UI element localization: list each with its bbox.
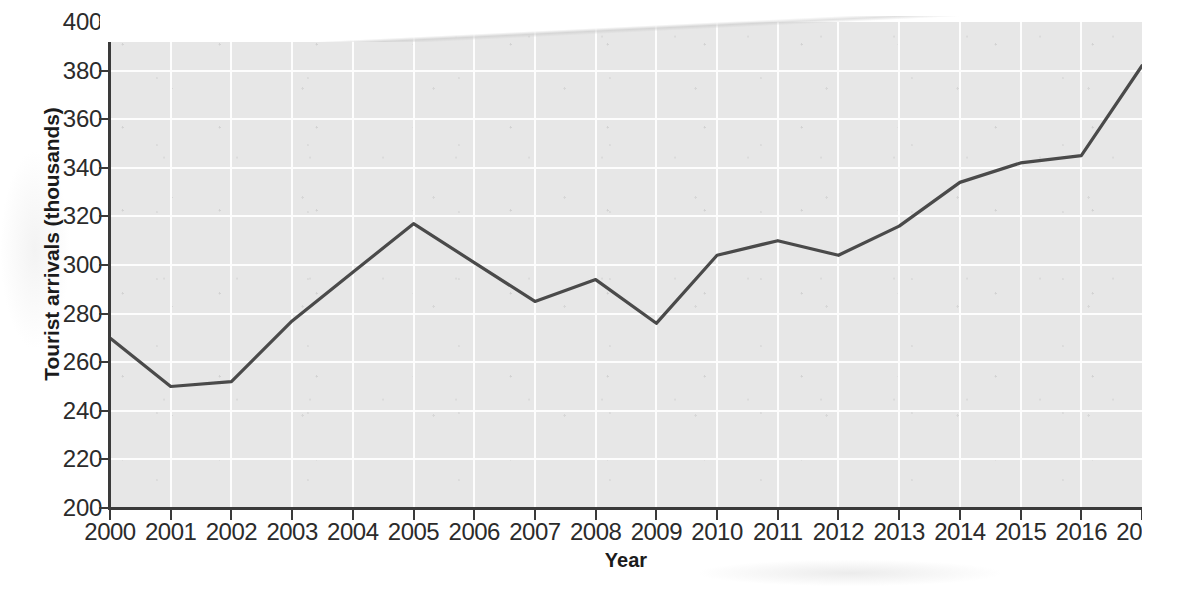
x-tick-label: 2006: [449, 518, 500, 546]
x-tick-label: 2012: [813, 518, 864, 546]
tick-mark-y: [99, 70, 110, 72]
x-tick-label: 2015: [995, 518, 1046, 546]
x-tick-label: 2009: [631, 518, 682, 546]
tick-mark-y: [99, 167, 110, 169]
x-tick-label: 2016: [1056, 518, 1107, 546]
x-tick-label: 2008: [570, 518, 621, 546]
x-tick-label: 2017: [1116, 518, 1167, 546]
x-tick-label: 2004: [327, 518, 378, 546]
x-tick-label: 2002: [206, 518, 257, 546]
x-tick-label: 2013: [873, 518, 924, 546]
tick-mark-y: [99, 313, 110, 315]
x-axis-spine: [108, 507, 1143, 510]
tick-mark-y: [99, 215, 110, 217]
x-tick-label: 2000: [84, 518, 135, 546]
x-tick-label: 2007: [509, 518, 560, 546]
line-chart-figure: Tourist arrivals (thousands) 20022024026…: [0, 0, 1178, 591]
tourist-arrivals-series-path: [110, 66, 1142, 387]
data-series-line: [0, 0, 1178, 591]
x-tick-label: 2014: [934, 518, 985, 546]
tick-mark-y: [99, 118, 110, 120]
tick-mark-y: [99, 361, 110, 363]
tick-mark-y: [99, 264, 110, 266]
x-axis-tick-labels: 2000200120022003200420052006200720082009…: [0, 512, 1178, 546]
tick-mark-y: [99, 410, 110, 412]
x-tick-label: 2011: [753, 518, 803, 546]
x-axis-title: Year: [110, 549, 1142, 572]
tick-mark-y: [99, 458, 110, 460]
x-tick-label: 2003: [266, 518, 317, 546]
x-tick-label: 2005: [388, 518, 439, 546]
x-tick-label: 2001: [145, 518, 196, 546]
tick-mark-y: [99, 21, 110, 23]
x-tick-label: 2010: [691, 518, 742, 546]
